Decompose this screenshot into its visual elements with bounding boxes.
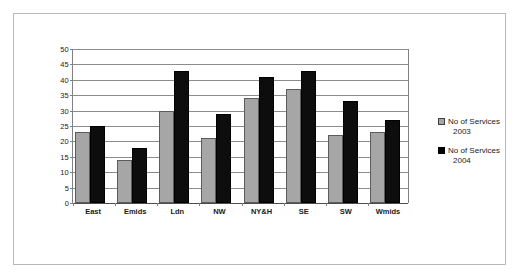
x-tick-label-sw: SW xyxy=(325,207,367,216)
x-tickmark-0 xyxy=(73,203,74,206)
x-tickmark-5 xyxy=(284,203,285,206)
x-tick-label-wmids: Wmids xyxy=(367,207,409,216)
bar-emids-2004[interactable] xyxy=(132,148,147,203)
legend-swatch-2003 xyxy=(438,118,445,125)
bar-group-se xyxy=(283,49,325,203)
chart-legend: No of Services2003No of Services2004 xyxy=(438,117,516,175)
x-axis-tick-labels: EastEmidsLdnNWNY&HSESWWmids xyxy=(72,207,409,223)
y-tick-label-15: 15 xyxy=(60,152,69,161)
bar-sw-2004[interactable] xyxy=(343,101,358,203)
y-tick-label-0: 0 xyxy=(65,199,69,208)
bar-east-2003[interactable] xyxy=(75,132,90,203)
bar-ny-h-2003[interactable] xyxy=(244,98,259,203)
x-tickmark-1 xyxy=(115,203,116,206)
y-tick-label-30: 30 xyxy=(60,106,69,115)
bar-east-2004[interactable] xyxy=(90,126,105,203)
y-tick-label-25: 25 xyxy=(60,122,69,131)
legend-label-2004: No of Services2004 xyxy=(448,146,500,166)
bar-nw-2004[interactable] xyxy=(216,114,231,203)
legend-entry-2003[interactable]: No of Services2003 xyxy=(438,117,516,137)
y-tick-label-10: 10 xyxy=(60,168,69,177)
bar-emids-2003[interactable] xyxy=(117,160,132,203)
x-tickmark-6 xyxy=(326,203,327,206)
bar-nw-2003[interactable] xyxy=(201,138,216,203)
y-tick-label-40: 40 xyxy=(60,75,69,84)
x-tickmark-2 xyxy=(157,203,158,206)
bar-ny-h-2004[interactable] xyxy=(259,77,274,203)
plot-wrapper: 50454035302520151050 EastEmidsLdnNWNY&HS… xyxy=(53,49,436,224)
legend-entry-2004[interactable]: No of Services2004 xyxy=(438,146,516,166)
legend-label-line1-2003: No of Services xyxy=(448,117,500,126)
bar-group-ldn xyxy=(156,49,198,203)
bar-group-emids xyxy=(114,49,156,203)
legend-label-2003: No of Services2003 xyxy=(448,117,500,137)
x-tick-label-nw: NW xyxy=(198,207,240,216)
bar-ldn-2003[interactable] xyxy=(159,111,174,203)
y-tick-label-45: 45 xyxy=(60,60,69,69)
bar-sw-2003[interactable] xyxy=(328,135,343,203)
bar-group-ny-h xyxy=(241,49,283,203)
y-tick-label-50: 50 xyxy=(60,45,69,54)
y-axis-tick-labels: 50454035302520151050 xyxy=(53,49,69,203)
bar-ldn-2004[interactable] xyxy=(174,71,189,203)
bar-wmids-2003[interactable] xyxy=(370,132,385,203)
legend-label-line2-2004: 2004 xyxy=(448,156,500,166)
gridline-0 xyxy=(73,203,408,204)
x-tickmark-3 xyxy=(199,203,200,206)
bars-layer xyxy=(72,49,409,203)
x-tickmark-4 xyxy=(242,203,243,206)
legend-label-line2-2003: 2003 xyxy=(448,127,500,137)
bar-group-nw xyxy=(198,49,240,203)
x-tick-label-emids: Emids xyxy=(114,207,156,216)
y-tick-label-20: 20 xyxy=(60,137,69,146)
legend-label-line1-2004: No of Services xyxy=(448,146,500,155)
bar-se-2003[interactable] xyxy=(286,89,301,203)
y-tick-label-5: 5 xyxy=(65,183,69,192)
bar-se-2004[interactable] xyxy=(301,71,316,203)
chart-frame: 50454035302520151050 EastEmidsLdnNWNY&HS… xyxy=(13,13,506,265)
x-tick-label-ny-h: NY&H xyxy=(241,207,283,216)
bar-wmids-2004[interactable] xyxy=(385,120,400,203)
legend-swatch-2004 xyxy=(438,147,445,154)
y-tick-label-35: 35 xyxy=(60,91,69,100)
x-tickmark-7 xyxy=(368,203,369,206)
bar-group-east xyxy=(72,49,114,203)
bar-group-sw xyxy=(325,49,367,203)
x-tick-label-ldn: Ldn xyxy=(156,207,198,216)
x-tick-label-se: SE xyxy=(283,207,325,216)
bar-group-wmids xyxy=(367,49,409,203)
x-tick-label-east: East xyxy=(72,207,114,216)
